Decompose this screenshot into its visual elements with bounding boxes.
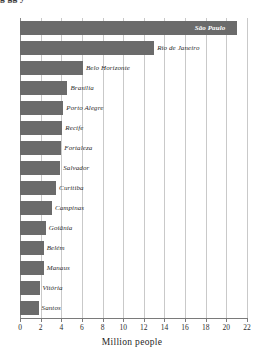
bar-row: Belo Horizonte bbox=[20, 61, 247, 75]
bar bbox=[20, 181, 56, 195]
bar-row: Campinas bbox=[20, 201, 247, 215]
x-tick-16 bbox=[185, 319, 186, 322]
bar-label: Goiânia bbox=[49, 224, 73, 232]
x-axis-title: Million people bbox=[0, 337, 264, 347]
bar-row: Belém bbox=[20, 241, 247, 255]
cropped-title-fragment: g gg y bbox=[0, 0, 264, 4]
plot-area: São PauloRio de JaneiroBelo HorizonteBra… bbox=[20, 18, 247, 318]
bar-row: Fortaleza bbox=[20, 141, 247, 155]
x-tick-label-16: 16 bbox=[181, 323, 189, 332]
bar bbox=[20, 241, 44, 255]
x-tick-label-18: 18 bbox=[202, 323, 210, 332]
x-tick-label-20: 20 bbox=[223, 323, 231, 332]
bar-label: Vitória bbox=[43, 284, 63, 292]
x-tick-20 bbox=[226, 319, 227, 322]
x-tick-18 bbox=[206, 319, 207, 322]
bar-row: São Paulo bbox=[20, 21, 247, 35]
bar bbox=[20, 161, 60, 175]
x-tick-8 bbox=[103, 319, 104, 322]
bar-row: Curitiba bbox=[20, 181, 247, 195]
bar-label: São Paulo bbox=[195, 24, 226, 32]
bar-row: Vitória bbox=[20, 281, 247, 295]
bar-row: Rio de Janeiro bbox=[20, 41, 247, 55]
x-tick-2 bbox=[41, 319, 42, 322]
x-tick-10 bbox=[123, 319, 124, 322]
bar-chart: g gg y São PauloRio de JaneiroBelo Horiz… bbox=[0, 0, 264, 359]
bar-label: Manaus bbox=[47, 264, 70, 272]
bar bbox=[20, 281, 40, 295]
bar-label: Brasília bbox=[70, 84, 93, 92]
bar-row: Porto Alegre bbox=[20, 101, 247, 115]
x-tick-label-12: 12 bbox=[140, 323, 148, 332]
x-axis-line bbox=[20, 318, 248, 319]
bar-row: Brasília bbox=[20, 81, 247, 95]
bar-row: Recife bbox=[20, 121, 247, 135]
x-tick-label-10: 10 bbox=[119, 323, 127, 332]
bar-row: Salvador bbox=[20, 161, 247, 175]
x-tick-14 bbox=[164, 319, 165, 322]
bar-label: Belo Horizonte bbox=[86, 64, 130, 72]
bar-label: Belém bbox=[47, 244, 65, 252]
bar-row: Santos bbox=[20, 301, 247, 315]
bar-row: Goiânia bbox=[20, 221, 247, 235]
bar-label: Recife bbox=[65, 124, 83, 132]
gridline-22 bbox=[247, 18, 248, 318]
bar bbox=[20, 141, 61, 155]
bar bbox=[20, 41, 154, 55]
x-tick-label-2: 2 bbox=[39, 323, 43, 332]
x-tick-label-6: 6 bbox=[80, 323, 84, 332]
x-tick-22 bbox=[247, 319, 248, 322]
bar-label: Rio de Janeiro bbox=[157, 44, 199, 52]
bar-label: Fortaleza bbox=[64, 144, 92, 152]
bar bbox=[20, 201, 52, 215]
bar-label: Salvador bbox=[63, 164, 89, 172]
bar-label: Santos bbox=[42, 304, 61, 312]
x-tick-0 bbox=[20, 319, 21, 322]
bar bbox=[20, 301, 39, 315]
bar bbox=[20, 101, 63, 115]
bar bbox=[20, 61, 83, 75]
x-tick-label-22: 22 bbox=[243, 323, 251, 332]
bar-label: Curitiba bbox=[59, 184, 84, 192]
x-tick-label-14: 14 bbox=[161, 323, 169, 332]
bar-row: Manaus bbox=[20, 261, 247, 275]
bar bbox=[20, 261, 44, 275]
x-tick-label-4: 4 bbox=[59, 323, 63, 332]
x-tick-6 bbox=[82, 319, 83, 322]
bar-label: Porto Alegre bbox=[66, 104, 103, 112]
x-tick-4 bbox=[61, 319, 62, 322]
bar bbox=[20, 221, 46, 235]
bar bbox=[20, 81, 67, 95]
bar bbox=[20, 121, 62, 135]
bar-label: Campinas bbox=[55, 204, 84, 212]
x-tick-label-8: 8 bbox=[101, 323, 105, 332]
x-tick-label-0: 0 bbox=[18, 323, 22, 332]
x-tick-12 bbox=[144, 319, 145, 322]
